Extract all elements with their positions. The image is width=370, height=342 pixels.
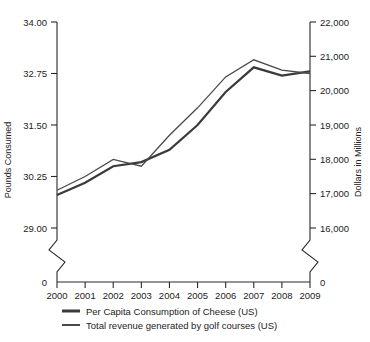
right-axis-tick-labels: 22,000 21,000 20,000 19,000 18,000 17,00… xyxy=(320,17,349,289)
series-line-cheese xyxy=(57,67,310,195)
right-tick-label-zero: 0 xyxy=(320,277,325,288)
right-tick-label-19000: 19,000 xyxy=(320,120,349,131)
x-tick-label-2000: 2000 xyxy=(46,290,67,301)
x-tick-label-2004: 2004 xyxy=(159,290,180,301)
chart-legend: Per Capita Consumption of Cheese (US) To… xyxy=(62,306,277,331)
x-axis-tick-labels: 2000200120022003200420052006200720082009 xyxy=(46,290,320,301)
left-axis-title: Pounds Consumed xyxy=(3,122,13,199)
x-tick-label-2003: 2003 xyxy=(131,290,152,301)
right-tick-label-22000: 22,000 xyxy=(320,17,349,28)
left-tick-label-31-50: 31.50 xyxy=(23,120,47,131)
left-axis-ticks xyxy=(51,22,57,228)
series-group xyxy=(57,60,310,195)
x-tick-label-2006: 2006 xyxy=(215,290,236,301)
x-tick-label-2002: 2002 xyxy=(103,290,124,301)
right-tick-label-18000: 18,000 xyxy=(320,154,349,165)
right-axis-title-text: Dollars in Millions xyxy=(353,126,363,197)
x-tick-label-2001: 2001 xyxy=(75,290,96,301)
x-tick-label-2008: 2008 xyxy=(271,290,292,301)
x-axis-ticks xyxy=(57,282,310,288)
left-tick-label-29: 29.00 xyxy=(23,223,47,234)
right-tick-label-16000: 16,000 xyxy=(320,223,349,234)
left-tick-label-30-25: 30.25 xyxy=(23,171,47,182)
left-tick-label-zero: 0 xyxy=(42,277,47,288)
right-tick-label-21000: 21,000 xyxy=(320,51,349,62)
right-axis-spine xyxy=(302,22,318,282)
left-axis-title-text: Pounds Consumed xyxy=(3,122,13,199)
series-line-golf xyxy=(57,60,310,190)
dual-axis-line-chart: Pounds Consumed Dollars in Millions 34.0… xyxy=(0,0,370,342)
x-tick-label-2007: 2007 xyxy=(243,290,264,301)
right-axis-title: Dollars in Millions xyxy=(353,126,363,197)
chart-container: Pounds Consumed Dollars in Millions 34.0… xyxy=(0,0,370,342)
left-axis-tick-labels: 34.00 32.75 31.50 30.25 29.00 0 xyxy=(23,17,47,289)
right-tick-label-17000: 17,000 xyxy=(320,188,349,199)
x-tick-label-2009: 2009 xyxy=(299,290,320,301)
left-axis-spine xyxy=(49,22,65,282)
left-tick-label-34: 34.00 xyxy=(23,17,47,28)
right-axis-ticks xyxy=(310,22,316,228)
legend-label-cheese: Per Capita Consumption of Cheese (US) xyxy=(86,306,258,317)
right-tick-label-20000: 20,000 xyxy=(320,85,349,96)
left-tick-label-32-75: 32.75 xyxy=(23,68,47,79)
legend-label-golf: Total revenue generated by golf courses … xyxy=(86,320,277,331)
x-tick-label-2005: 2005 xyxy=(187,290,208,301)
